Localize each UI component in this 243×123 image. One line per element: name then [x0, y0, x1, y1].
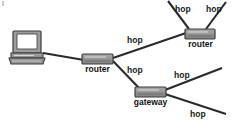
router-right-device [185, 29, 215, 39]
laptop-device [9, 31, 45, 64]
laptop-screen-display [17, 34, 37, 49]
router-left-body [82, 54, 113, 64]
gateway-device [135, 87, 166, 97]
edge-router-left-to-router-right [113, 33, 186, 58]
edge-label-hop-top-right: hop [206, 4, 222, 14]
edge-label-hop-router-to-gateway: hop [127, 65, 143, 75]
router-left-device [82, 54, 113, 64]
edge-label-hop-gateway-lower: hop [190, 109, 206, 119]
edge-laptop-to-router-left [43, 53, 84, 60]
network-diagram-canvas: hop hop hop hop hop hop router router ga… [0, 0, 243, 123]
node-label-gateway: gateway [128, 97, 173, 107]
gateway-body [135, 87, 166, 97]
edge-label-hop-router-to-router: hop [127, 35, 143, 45]
edge-label-hop-top-left: hop [175, 4, 191, 14]
node-label-router-right: router [183, 39, 218, 49]
diagram-svg [0, 0, 243, 123]
node-label-router-left: router [80, 64, 115, 74]
edge-label-hop-gateway-upper: hop [174, 70, 190, 80]
router-right-body [185, 29, 215, 39]
